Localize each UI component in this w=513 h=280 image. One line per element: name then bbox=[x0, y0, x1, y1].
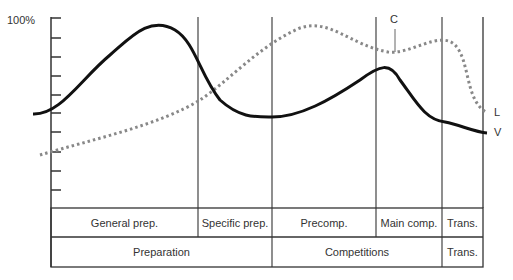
cell-competitions: Competitions bbox=[272, 237, 442, 267]
curve-label-l: L bbox=[494, 106, 500, 118]
curve-label-v: V bbox=[494, 126, 501, 138]
cell-preparation: Preparation bbox=[51, 237, 272, 267]
cell-main-comp: Main comp. bbox=[376, 208, 442, 237]
cell-specific-prep: Specific prep. bbox=[198, 208, 272, 237]
curve-l bbox=[40, 26, 486, 155]
cell-precomp: Precomp. bbox=[272, 208, 376, 237]
cell-trans-1: Trans. bbox=[442, 208, 483, 237]
y-axis-top-label: 100% bbox=[7, 14, 35, 26]
cell-trans-2: Trans. bbox=[442, 237, 483, 267]
cell-general-prep: General prep. bbox=[51, 208, 198, 237]
curve-v bbox=[33, 25, 487, 133]
curve-label-c: C bbox=[390, 13, 398, 25]
